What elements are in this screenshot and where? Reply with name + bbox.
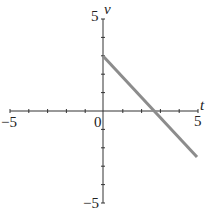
chart: −5 0 5 t 5 v −5 <box>0 0 211 210</box>
data-line <box>103 56 197 157</box>
y-min-label: −5 <box>83 195 99 210</box>
y-max-label: 5 <box>91 8 99 24</box>
x-min-label: −5 <box>1 114 17 130</box>
origin-label: 0 <box>94 114 102 130</box>
x-max-label: 5 <box>194 113 202 129</box>
y-axis-label: v <box>104 1 111 17</box>
x-axis <box>10 109 198 113</box>
x-axis-label: t <box>200 97 205 113</box>
